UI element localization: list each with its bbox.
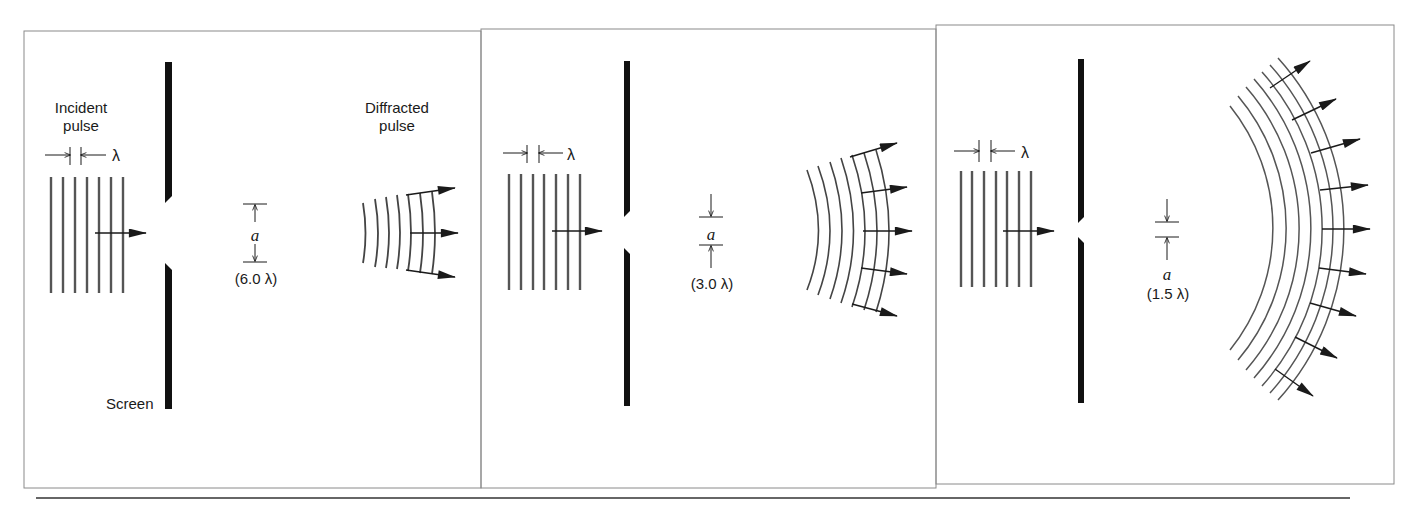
slit-width-dimension: a (1.5 λ) <box>1147 199 1190 302</box>
diffracted-pulse-label-line2: pulse <box>379 117 415 134</box>
slit-width-dimension: a (3.0 λ) <box>691 194 734 292</box>
screen <box>1078 59 1084 403</box>
wavelength-dimension: λ <box>45 147 120 165</box>
incident-pulse-label-line2: pulse <box>63 117 99 134</box>
lambda-label: λ <box>112 147 120 164</box>
slit-width-label: (6.0 λ) <box>235 270 278 287</box>
lambda-label: λ <box>567 146 575 163</box>
screen <box>624 61 630 406</box>
panel-frame <box>936 25 1394 484</box>
wavelength-dimension: λ <box>954 140 1029 162</box>
incident-wavefronts <box>961 171 1031 287</box>
panel-3: λ a (1.5 λ) <box>936 25 1394 484</box>
incident-wavefronts <box>51 177 123 293</box>
incident-pulse-label: Incident <box>55 99 108 116</box>
panel-frame <box>481 29 936 488</box>
lambda-label: λ <box>1021 144 1029 161</box>
diffracted-direction-arrows <box>1270 61 1370 396</box>
screen-label: Screen <box>106 395 154 412</box>
slit-width-label: (3.0 λ) <box>691 275 734 292</box>
slit-symbol: a <box>1163 265 1172 284</box>
diffraction-figure: Incident pulse λ Screen <box>0 0 1414 509</box>
wavelength-dimension: λ <box>503 145 575 163</box>
incident-wavefronts <box>509 174 580 290</box>
slit-width-label: (1.5 λ) <box>1147 285 1190 302</box>
slit-symbol: a <box>707 225 716 244</box>
slit-symbol: a <box>251 226 260 245</box>
slit-width-dimension: a (6.0 λ) <box>235 204 278 287</box>
diffracted-direction-arrows <box>406 188 458 277</box>
panel-1: Incident pulse λ Screen <box>24 31 481 488</box>
screen <box>165 62 172 409</box>
panel-2: λ a (3.0 λ) <box>481 29 936 488</box>
diffracted-pulse-label: Diffracted <box>365 99 429 116</box>
